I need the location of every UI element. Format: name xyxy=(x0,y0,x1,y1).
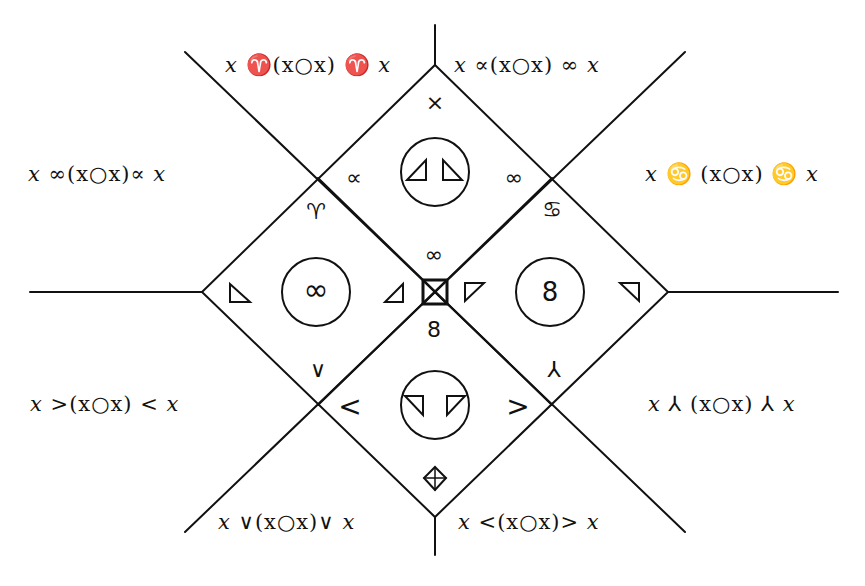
symbol-aries: ♈ xyxy=(306,201,326,223)
symbol-infinity-right: ∞ xyxy=(505,167,523,189)
label-top-left: x ♈(x○x) ♈ x xyxy=(225,53,391,77)
lattice-diagram xyxy=(0,0,865,586)
symbol-less-than: < xyxy=(338,396,361,418)
label-right-upper: x ♋ (x○x) ♋ x xyxy=(645,162,819,186)
symbol-top-cross: × xyxy=(426,92,444,114)
label-bottom-right: x <(x○x)> x xyxy=(458,510,600,534)
symbol-loop: ♋ xyxy=(542,199,562,221)
label-right-lower: x ⅄ (x○x) ⅄ x xyxy=(648,392,796,416)
circle-left-infinity: ∞ xyxy=(304,275,329,305)
label-left-lower: x >(x○x) < x xyxy=(30,392,179,416)
circle-top xyxy=(401,138,469,206)
circle-right-eight: 8 xyxy=(542,277,559,307)
circle-bottom xyxy=(401,371,469,439)
label-bottom-left: x ∨(x○x)∨ x xyxy=(218,510,355,534)
symbol-lambda: ⅄ xyxy=(547,359,560,381)
symbol-eight-center: 8 xyxy=(427,319,441,341)
label-left-upper: x ∞(x○x)∝ x xyxy=(28,162,166,186)
symbol-vee: ∨ xyxy=(310,359,326,381)
symbol-proportional: ∝ xyxy=(346,167,362,189)
symbol-greater-than: > xyxy=(506,396,529,418)
symbol-infinity-center: ∞ xyxy=(425,244,443,266)
label-top-right: x ∝(x○x) ∞ x xyxy=(454,53,600,77)
